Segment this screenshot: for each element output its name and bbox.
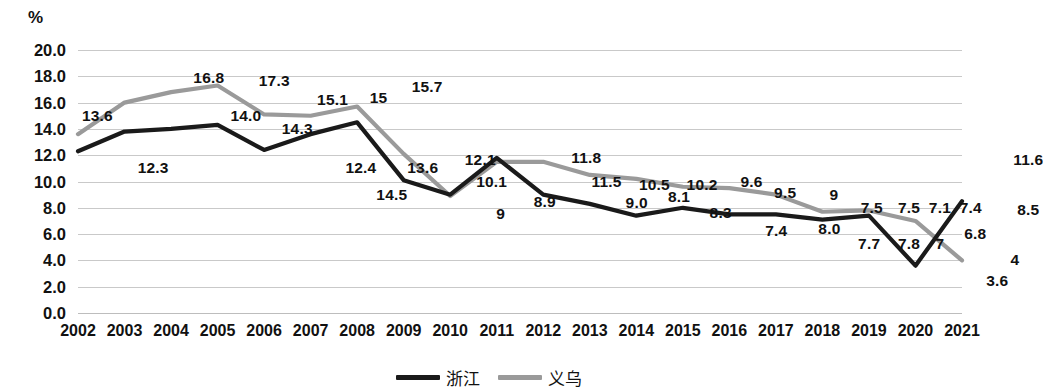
data-label: 15.1: [317, 91, 348, 109]
data-label: 7.1: [929, 199, 951, 217]
data-label: 7.5: [898, 199, 920, 217]
legend-swatch-zhejiang: [396, 375, 440, 380]
data-label: 10.5: [639, 176, 670, 194]
data-label: 12.4: [345, 159, 376, 177]
x-tick-label: 2014: [619, 322, 655, 340]
data-label: 7: [935, 235, 944, 253]
x-tick-label: 2012: [525, 322, 561, 340]
x-tick-label: 2004: [153, 322, 189, 340]
y-axis-tick-labels: 0.02.04.06.08.010.012.014.016.018.020.0: [0, 50, 66, 313]
data-label: 8.3: [710, 204, 732, 222]
y-axis-unit-label: %: [28, 8, 44, 28]
legend-item-zhejiang[interactable]: 浙江: [396, 365, 480, 390]
x-tick-label: 2003: [107, 322, 143, 340]
x-tick-label: 2020: [898, 322, 934, 340]
data-label: 7.8: [898, 235, 920, 253]
x-tick-label: 2015: [665, 322, 701, 340]
x-tick-label: 2008: [339, 322, 375, 340]
x-tick-label: 2016: [712, 322, 748, 340]
data-label: 14.0: [230, 107, 261, 125]
x-tick-label: 2009: [386, 322, 422, 340]
legend-item-yiwu[interactable]: 义乌: [498, 365, 582, 390]
y-tick-label: 20.0: [4, 41, 66, 60]
data-label: 13.6: [407, 159, 438, 177]
data-label: 11.8: [571, 149, 601, 167]
y-tick-label: 14.0: [4, 119, 66, 138]
x-tick-label: 2018: [805, 322, 841, 340]
y-tick-label: 10.0: [4, 172, 66, 191]
x-tick-label: 2006: [246, 322, 282, 340]
data-label: 8.9: [534, 193, 556, 211]
x-tick-label: 2007: [293, 322, 329, 340]
data-label: 9.6: [741, 173, 763, 191]
data-label: 10.2: [687, 176, 718, 194]
data-label: 17.3: [259, 72, 290, 90]
data-label: 11.6: [1013, 151, 1043, 169]
data-label: 15: [370, 89, 388, 107]
legend-label-zhejiang: 浙江: [446, 365, 480, 390]
data-label: 7.5: [861, 199, 883, 217]
data-label: 4: [1011, 251, 1020, 269]
data-label: 11.5: [592, 173, 622, 191]
x-tick-label: 2010: [432, 322, 468, 340]
x-tick-label: 2017: [758, 322, 794, 340]
data-label: 9: [829, 186, 838, 204]
y-tick-label: 6.0: [4, 225, 66, 244]
data-label: 7.4: [765, 222, 787, 240]
x-tick-label: 2011: [479, 322, 514, 340]
x-tick-label: 2005: [200, 322, 236, 340]
data-label: 9.5: [774, 184, 796, 202]
y-tick-label: 0.0: [4, 304, 66, 323]
data-label: 10.1: [476, 173, 507, 191]
series-lines: [78, 50, 962, 313]
x-tick-label: 2019: [851, 322, 887, 340]
legend-swatch-yiwu: [498, 375, 542, 380]
plot-area: 13.612.316.814.017.314.315.11512.415.713…: [78, 50, 962, 313]
legend-label-yiwu: 义乌: [548, 365, 582, 390]
x-tick-label: 2002: [60, 322, 96, 340]
data-label: 6.8: [964, 225, 986, 243]
data-label: 12.3: [138, 159, 169, 177]
data-label: 12.1: [465, 151, 496, 169]
data-label: 7.7: [858, 235, 880, 253]
y-tick-label: 12.0: [4, 146, 66, 165]
data-label: 9.0: [626, 194, 648, 212]
x-tick-label: 2021: [944, 322, 980, 340]
x-axis-tick-labels: 2002200320042005200620072008200920102011…: [78, 322, 962, 348]
data-label: 9: [496, 205, 505, 223]
gridline-0.0: [78, 313, 962, 314]
data-label: 8.5: [1017, 201, 1039, 219]
chart-legend: 浙江 义乌: [0, 365, 978, 390]
data-label: 7.4: [960, 199, 982, 217]
y-tick-label: 16.0: [4, 93, 66, 112]
x-tick-label: 2013: [572, 322, 608, 340]
data-label: 14.5: [376, 186, 407, 204]
y-tick-label: 18.0: [4, 67, 66, 86]
data-label: 14.3: [282, 120, 313, 138]
data-label: 16.8: [193, 69, 224, 87]
data-label: 15.7: [412, 78, 443, 96]
y-tick-label: 2.0: [4, 277, 66, 296]
data-label: 13.6: [82, 107, 113, 125]
y-tick-label: 4.0: [4, 251, 66, 270]
y-tick-label: 8.0: [4, 198, 66, 217]
data-label: 8.0: [818, 220, 840, 238]
data-label: 3.6: [986, 272, 1008, 290]
